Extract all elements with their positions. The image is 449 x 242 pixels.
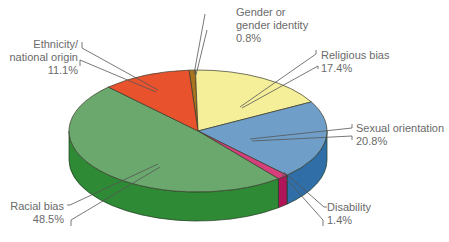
label-sexual-orientation: Sexual orientation 20.8% bbox=[356, 122, 444, 148]
pie-side-disability bbox=[278, 175, 287, 208]
label-racial-bias: Racial bias 48.5% bbox=[10, 200, 64, 226]
label-religious: Religious bias 17.4% bbox=[321, 49, 389, 75]
label-ethnicity: Ethnicity/ national origin 11.1% bbox=[10, 38, 79, 77]
label-gender: Gender or gender identity 0.8% bbox=[236, 6, 308, 45]
label-disability: Disability 1.4% bbox=[327, 201, 371, 227]
pie-chart bbox=[0, 0, 449, 242]
pie-tops bbox=[69, 70, 327, 192]
